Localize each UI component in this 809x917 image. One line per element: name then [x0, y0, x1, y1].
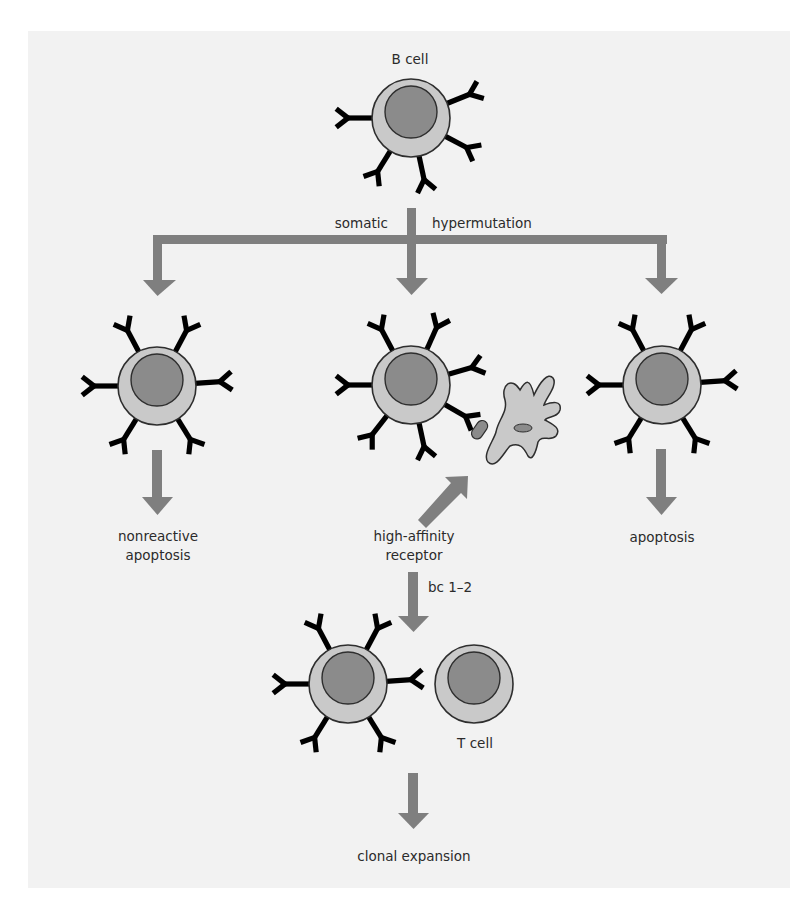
b-cell-nonreactive — [81, 313, 234, 457]
dendritic-cell-icon — [486, 376, 560, 464]
arrow-down-icon — [398, 616, 429, 632]
t-cell-label: T cell — [456, 735, 493, 751]
arrow-to-clonal-expansion — [398, 773, 429, 829]
b-cell-high-affinity — [335, 311, 488, 463]
outcome-clonal-expansion: clonal expansion — [357, 848, 470, 864]
arrow-down-icon — [645, 278, 678, 294]
antigen-icon — [469, 418, 489, 441]
outcome-apoptosis: apoptosis — [629, 529, 694, 545]
arrow-to-apoptosis — [646, 449, 677, 515]
arrow-to-dendritic — [418, 476, 468, 528]
bcl-label: bc 1–2 — [428, 579, 472, 595]
branch-arrows — [143, 208, 678, 296]
b-cell-clonal — [272, 611, 425, 755]
arrow-to-nonreactive — [142, 450, 173, 515]
t-cell — [435, 645, 513, 723]
outcome-nonreactive-line2: apoptosis — [125, 547, 190, 563]
b-cell-apoptosis — [586, 312, 739, 456]
dendritic-nucleus-icon — [514, 424, 532, 432]
outcome-high-affinity-line1: high-affinity — [373, 528, 454, 544]
outcome-high-affinity-line2: receptor — [386, 547, 443, 563]
arrow-down-icon — [143, 280, 176, 296]
b-cell-top — [335, 79, 487, 195]
somatic-label: somatic — [335, 215, 388, 231]
b-cell-label: B cell — [392, 51, 429, 67]
arrow-down-icon — [398, 813, 429, 829]
arrow-down-icon — [646, 497, 677, 515]
arrow-down-icon — [142, 497, 173, 515]
b-cell-selection-diagram: B cell somatic hypermutation — [0, 0, 809, 917]
outcome-nonreactive-line1: nonreactive — [118, 528, 198, 544]
arrow-to-clonal-b-cell — [398, 572, 429, 632]
arrow-down-icon — [396, 278, 428, 295]
hypermutation-label: hypermutation — [432, 215, 532, 231]
